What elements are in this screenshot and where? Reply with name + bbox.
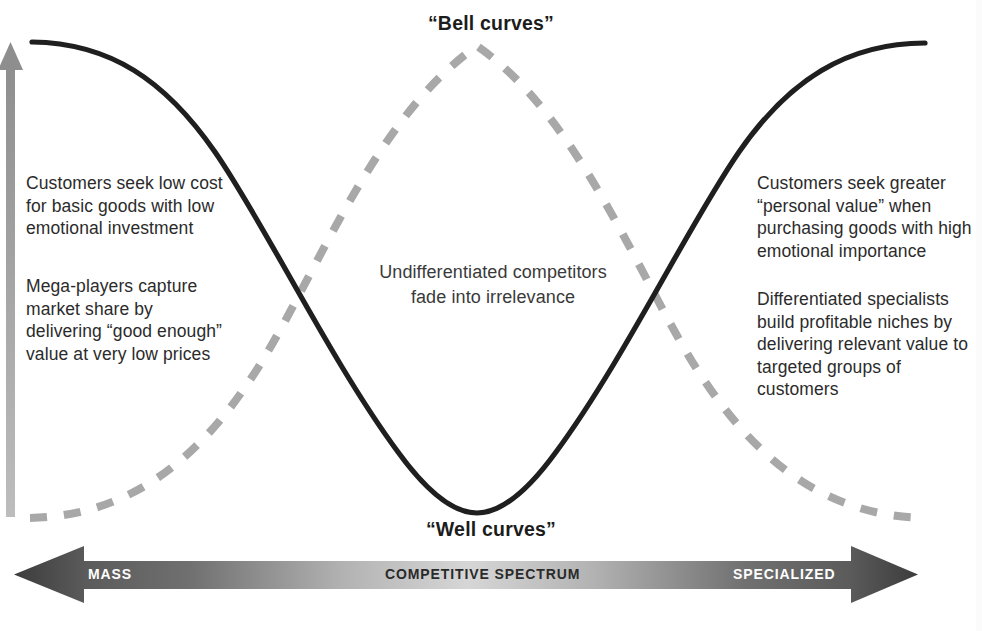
center-note: Undifferentiated competitors fade into i… <box>368 260 618 310</box>
right-note-1: Customers seek greater “personal value” … <box>757 172 973 262</box>
spectrum-label-mass: MASS <box>88 566 132 582</box>
bell-curves-label: “Bell curves” <box>341 12 641 35</box>
left-note-2: Mega-players capture market share by del… <box>26 275 231 365</box>
vertical-axis-arrow <box>0 42 23 517</box>
right-note-2: Differentiated specialists build profita… <box>757 288 973 401</box>
left-note-1: Customers seek low cost for basic goods … <box>26 172 231 240</box>
diagram-canvas: “Bell curves” “Well curves” Customers se… <box>0 0 982 631</box>
spectrum-label-center: COMPETITIVE SPECTRUM <box>385 566 580 582</box>
well-curves-label: “Well curves” <box>341 518 641 541</box>
spectrum-label-specialized: SPECIALIZED <box>733 566 835 582</box>
